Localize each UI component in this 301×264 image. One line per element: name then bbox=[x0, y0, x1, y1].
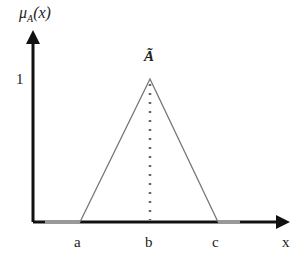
y-axis-label: μA(x) bbox=[19, 4, 51, 24]
mu-symbol: μ bbox=[19, 4, 27, 21]
x-tick-b: b bbox=[145, 234, 153, 251]
x-tick-a: a bbox=[74, 234, 81, 251]
x-axis-arrow-icon bbox=[276, 215, 290, 229]
y-axis-arrow-icon bbox=[26, 30, 40, 44]
x-tick-c: c bbox=[212, 234, 219, 251]
y-tick-1: 1 bbox=[16, 71, 24, 88]
mu-argument: (x) bbox=[33, 4, 51, 21]
peak-label: Ã bbox=[144, 48, 154, 65]
membership-diagram bbox=[0, 0, 301, 264]
x-axis-label: x bbox=[282, 234, 290, 251]
triangle-membership bbox=[80, 79, 218, 222]
